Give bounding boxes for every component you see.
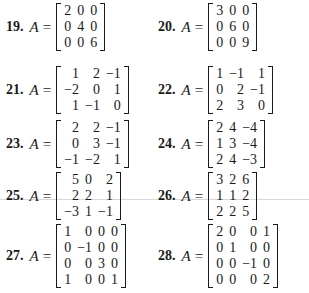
matrix-row: 1001 [61,272,121,288]
matrix: 22−103−1−1−21 [56,120,129,168]
matrix-entry: 2 [213,224,226,240]
matrix-entry: 3 [226,98,247,114]
matrix: 12−1−2011−10 [56,66,129,114]
matrix-entry: 1 [61,66,82,82]
matrix-row: 03−1 [61,136,124,152]
problem-20: 20.A=300060009 [158,3,257,51]
equals-sign: = [43,188,51,205]
matrix-row: 009 [213,35,252,51]
problem-number: 22. [158,82,176,98]
problem-19: 19.A=200040006 [6,3,105,51]
matrix-entry: 0 [61,256,74,272]
matrix-entry: 0 [61,19,74,35]
matrix-row: 221 [61,188,116,204]
matrix-entry: 2 [82,120,103,136]
matrix-entry: 0 [260,240,273,256]
problem-number: 26. [158,188,176,204]
problem-number: 20. [158,19,176,35]
matrix-row: 060 [213,19,252,35]
matrix-entry: 0 [213,82,226,98]
matrix-entry: 0 [239,3,252,19]
matrix-entry: 0 [74,3,87,19]
matrix-entry: 0 [239,240,260,256]
matrix-entry: 0 [108,224,121,240]
matrix-entry: 1 [61,98,82,114]
matrix-entry: 2 [213,120,226,136]
matrix-variable: A [30,248,39,265]
matrix-row: 12−1 [61,66,124,82]
matrix-entry: −1 [247,82,268,98]
equals-sign: = [195,82,203,99]
matrix-entry: 2 [95,172,116,188]
matrix-entry: −1 [95,204,116,220]
matrix-entry: 3 [213,172,226,188]
matrix-entry: 2 [82,66,103,82]
matrix-entry: 0 [213,35,226,51]
matrix-row: 24−3 [213,152,260,168]
matrix-entry: 0 [82,172,95,188]
problem-22: 22.A=1−1102−1230 [158,66,273,114]
matrix-variable: A [182,136,191,153]
matrix-entry: 9 [239,35,252,51]
matrix-row: 326 [213,172,252,188]
matrix-entry: 1 [213,66,226,82]
matrix-entry: 3 [82,136,103,152]
matrix-entry: 0 [74,272,95,288]
matrix: 502221−31−1 [56,172,121,220]
matrix-row: 0002 [213,272,273,288]
matrix: 10000−10000301001 [56,224,126,288]
matrix-entry: 4 [74,19,87,35]
matrix-entry: 2 [213,152,226,168]
matrix-entry: −3 [61,204,82,220]
matrix-entry: 1 [226,188,239,204]
matrix-entry: 0 [226,224,239,240]
matrix: 200040006 [56,3,105,51]
matrix-row: −201 [61,82,124,98]
matrix-row: 112 [213,188,252,204]
matrix-row: 02−1 [213,82,268,98]
matrix-entry: 0 [95,224,108,240]
matrix-row: 0−100 [61,240,121,256]
matrix-row: −31−1 [61,204,116,220]
matrix-row: 1−11 [213,66,268,82]
matrix-entry: 0 [226,272,239,288]
matrix-entry: 1 [103,152,124,168]
equals-sign: = [43,136,51,153]
matrix-entry: 2 [61,3,74,19]
matrix-entry: 0 [260,256,273,272]
matrix-row: 22−1 [61,120,124,136]
matrix: 326112225 [208,172,257,220]
matrix-entry: 0 [213,272,226,288]
matrix-row: 1−10 [61,98,124,114]
matrix-row: 13−4 [213,136,260,152]
matrix-entry: 1 [61,272,74,288]
matrix-entry: 0 [103,98,124,114]
matrix-row: 0100 [213,240,273,256]
problem-26: 26.A=326112225 [158,172,257,220]
matrix-entry: 0 [226,35,239,51]
matrix-entry: 2 [213,98,226,114]
matrix-entry: −2 [82,152,103,168]
matrix-entry: 0 [61,35,74,51]
matrix-entry: 0 [74,35,87,51]
problem-24: 24.A=24−413−424−3 [158,120,265,168]
matrix-entry: 2 [213,204,226,220]
matrix-entry: 2 [226,82,247,98]
matrix-entry: −3 [239,152,260,168]
matrix-entry: 0 [239,272,260,288]
problem-number: 21. [6,82,24,98]
matrix-entry: 0 [239,224,260,240]
matrix-entry: 0 [74,256,95,272]
matrix-row: 1000 [61,224,121,240]
matrix-row: 2001 [213,224,273,240]
matrix-entry: 0 [247,98,268,114]
matrix-row: 040 [61,19,100,35]
matrix-entry: 2 [61,120,82,136]
matrix-entry: −2 [61,82,82,98]
problem-number: 23. [6,136,24,152]
matrix-entry: −1 [103,66,124,82]
matrix-entry: −4 [239,136,260,152]
equals-sign: = [43,248,51,265]
problem-28: 28.A=2001010000−100002 [158,224,278,288]
matrix-entry: −1 [103,136,124,152]
